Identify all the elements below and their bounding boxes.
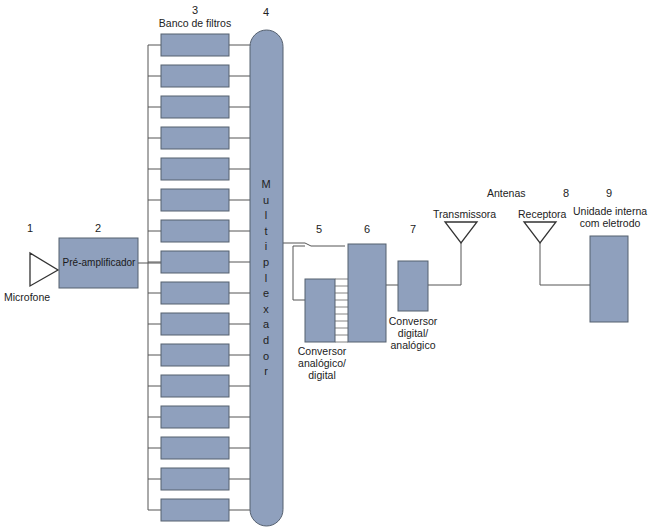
filter-block [161,406,229,428]
adc-block [305,279,335,342]
multiplexer-letter: p [256,256,276,268]
transmitter-antenna-icon [445,222,477,243]
filter-block [161,375,229,397]
filter-block [161,220,229,242]
filter-bank-label: Banco de filtros [150,17,240,29]
filter-block [161,34,229,56]
multiplexer-letter: l [256,209,276,221]
filter-block [161,65,229,87]
dac-to-transmitter-line [428,243,461,285]
multiplexer-letter: d [256,334,276,346]
filter-block [161,282,229,304]
multiplexer-letter: x [256,303,276,315]
multiplexer-letter: r [256,365,276,377]
label-number-3: 3 [189,4,201,16]
label-number-9: 9 [603,187,615,199]
microphone-label: Microfone [4,291,50,303]
receiver-antenna-icon [524,222,556,243]
processor-block-6 [348,244,386,342]
label-number-2: 2 [92,222,104,234]
adc-label: Conversor analógico/ digital [292,345,352,381]
multiplexer-letter: a [256,318,276,330]
filter-block [161,313,229,335]
filter-block [161,437,229,459]
label-number-7: 7 [407,223,419,235]
multiplexer-letter: l [256,272,276,284]
microphone-icon [30,253,58,286]
antennas-label: Antenas [487,187,526,199]
preamplifier-label: Pré-amplificador [59,257,139,269]
mux-feedback-line [293,246,305,300]
multiplexer-letter: o [256,350,276,362]
filter-block [161,96,229,118]
multiplexer-letter: e [256,287,276,299]
filter-block [161,468,229,490]
internal-unit-block [590,236,628,322]
filter-block [161,344,229,366]
receiver-to-unit-line [540,243,590,285]
multiplexer-letter: u [256,194,276,206]
adc-ladder [335,279,348,342]
internal-unit-label: Unidade interna com eletrodo [573,205,647,229]
label-number-1: 1 [24,222,36,234]
filter-block [161,499,229,521]
receiver-label: Receptora [518,208,566,220]
multiplexer-letter: t [256,225,276,237]
multiplexer-letter: i [256,240,276,252]
filter-block [161,189,229,211]
transmitter-label: Transmissora [433,208,496,220]
filter-block [161,251,229,273]
label-number-8: 8 [560,187,572,199]
filter-block [161,158,229,180]
dac-block [398,261,428,311]
multiplexer-letter: M [256,178,276,190]
label-number-4: 4 [260,6,272,18]
filter-block [161,127,229,149]
label-number-6: 6 [361,223,373,235]
dac-label: Conversor digital/ analógico [383,315,443,351]
label-number-5: 5 [313,223,325,235]
